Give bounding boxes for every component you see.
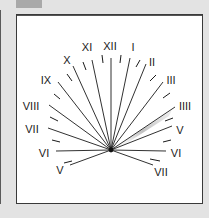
hour-label: VI xyxy=(171,147,181,159)
half-hour-tick xyxy=(120,55,121,63)
sundial-diagram: VVIVIIVIIIIXXXIXIIIIIIIIIIIIVVIVII xyxy=(0,0,209,218)
hour-label: V xyxy=(56,164,64,176)
hour-label: V xyxy=(176,124,184,136)
hour-label: IX xyxy=(41,74,52,86)
hour-line xyxy=(49,105,111,150)
half-hour-tick xyxy=(163,140,171,142)
hour-line xyxy=(70,150,111,165)
shadow-wedge xyxy=(111,110,172,152)
hour-label: VII xyxy=(25,123,38,135)
hour-line xyxy=(56,150,111,151)
half-hour-tick xyxy=(163,93,170,98)
hour-label: II xyxy=(149,56,155,68)
hour-line xyxy=(111,150,166,151)
half-hour-tick xyxy=(150,75,156,81)
hour-label: VII xyxy=(154,166,167,178)
hour-line xyxy=(111,58,130,150)
hour-label: VIII xyxy=(23,100,40,112)
hour-labels: VVIVIIVIIIIXXXIXIIIIIIIIIIIIVVIVII xyxy=(23,40,191,178)
hour-label: X xyxy=(63,54,71,66)
gnomon-base xyxy=(109,148,114,153)
half-hour-tick xyxy=(50,117,58,121)
hour-line xyxy=(48,128,111,150)
hour-label: XI xyxy=(82,41,92,53)
hour-line xyxy=(92,60,111,150)
hour-label: VI xyxy=(39,147,49,159)
half-hour-tick xyxy=(67,74,72,81)
half-hour-tick xyxy=(83,62,86,70)
half-hour-tick xyxy=(136,60,140,67)
gnomon-shadow xyxy=(111,110,172,152)
half-hour-tick xyxy=(52,140,60,142)
half-hour-tick xyxy=(102,55,103,63)
half-hour-tick xyxy=(165,118,173,121)
hour-label: I xyxy=(131,41,134,53)
hour-label: XII xyxy=(103,40,116,52)
half-hour-tick xyxy=(64,161,72,163)
hour-label: III xyxy=(166,74,175,86)
hour-line xyxy=(111,64,146,150)
hour-label: IIII xyxy=(179,100,191,112)
half-hour-tick xyxy=(150,159,160,161)
half-hour-tick xyxy=(54,94,60,99)
hour-line xyxy=(111,150,153,165)
